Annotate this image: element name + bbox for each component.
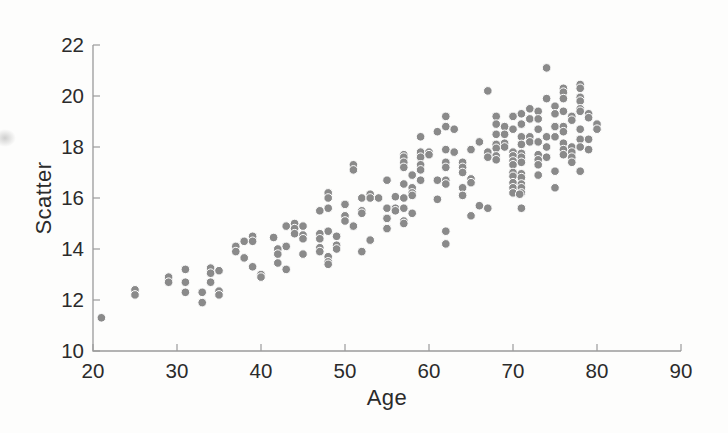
x-tick-label: 80 [586,359,609,382]
data-point [576,84,585,93]
data-point [269,233,278,242]
data-point [181,265,190,274]
y-tick-label: 14 [61,237,84,260]
data-point [542,153,551,162]
axis-lines [93,45,681,351]
data-point [568,116,577,125]
data-point [492,120,501,129]
data-point [408,209,417,218]
data-point [492,130,501,139]
data-point [475,138,484,147]
data-point [349,166,358,175]
data-point [324,260,333,269]
data-point [534,138,543,147]
data-point [198,288,207,297]
data-point [534,125,543,134]
data-point [458,168,467,177]
data-point [232,247,241,256]
data-point [526,105,535,114]
data-point [400,163,409,172]
data-point [181,278,190,287]
data-point [551,167,560,176]
data-point [299,222,308,231]
data-point [290,229,299,238]
data-point [568,158,577,167]
data-point [391,192,400,201]
data-point [509,125,518,134]
data-point [425,150,434,159]
x-tick-label: 60 [418,359,441,382]
data-point [559,150,568,159]
data-point [559,127,568,136]
data-point [215,266,224,275]
data-point [576,125,585,134]
data-point [467,212,476,221]
data-point [416,133,425,142]
data-point [332,245,341,254]
x-tick-label: 30 [166,359,189,382]
data-point [274,250,283,259]
data-point [181,288,190,297]
data-point [576,143,585,152]
data-point [542,133,551,142]
data-point [164,278,173,287]
data-point [206,269,215,278]
data-point [282,242,291,251]
data-point [442,112,451,121]
data-point [475,201,484,210]
x-tick-label: 70 [502,359,525,382]
data-point [517,120,526,129]
data-point [442,180,451,189]
data-point [534,171,543,180]
data-point [433,176,442,185]
data-point [517,110,526,119]
data-point [374,194,383,203]
data-point [458,191,467,200]
data-point [593,125,602,134]
data-point [584,135,593,144]
data-point [248,263,257,272]
data-point [517,204,526,213]
data-point [442,227,451,236]
scatter-figure: 101214161820222030405060708090 Age Scatt… [0,0,728,433]
data-point [349,222,358,231]
data-point [442,145,451,154]
data-point [316,247,325,256]
photo-artifact-smudge [0,129,16,147]
data-point [450,148,459,157]
data-point [500,143,509,152]
data-point [391,207,400,216]
data-point [324,227,333,236]
data-point [282,222,291,231]
data-point [442,240,451,249]
data-point [131,291,140,300]
data-point [383,224,392,233]
data-point [584,113,593,122]
data-point [433,195,442,204]
data-point [559,94,568,103]
data-point [341,200,350,209]
x-tick-label: 90 [670,359,693,382]
data-point [358,194,367,203]
data-point [324,194,333,203]
data-point [551,184,560,193]
data-point [366,236,375,245]
y-tick-label: 22 [61,33,84,56]
data-point [400,194,409,203]
data-point [316,235,325,244]
data-point [500,130,509,139]
data-point [341,217,350,226]
x-axis-label: Age [93,385,681,411]
data-point [198,298,207,307]
data-point [576,107,585,116]
data-point [509,112,518,121]
data-point [484,204,493,213]
data-point [408,191,417,200]
data-point [484,87,493,96]
data-point [240,237,249,246]
y-axis-label: Scatter [31,161,57,234]
data-point [206,278,215,287]
data-point [442,163,451,172]
data-point [408,171,417,180]
data-point [542,64,551,73]
